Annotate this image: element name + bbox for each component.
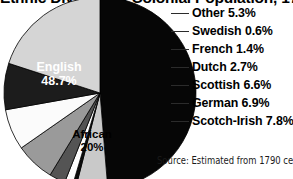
slice-label-african-value: 20% (59, 141, 125, 154)
legend-item: Other 5.3% (171, 5, 293, 23)
slice-label-african: African 20% (59, 128, 125, 154)
leader-line-icon (171, 121, 189, 122)
leader-line-icon (171, 31, 189, 32)
legend-item-label: German 6.9% (192, 95, 269, 112)
legend-item: Dutch 2.7% (171, 59, 293, 77)
leader-line-icon (171, 103, 189, 104)
legend-item: French 1.4% (171, 41, 293, 59)
slice-label-english-value: 48.7% (22, 74, 96, 88)
source-note: Source: Estimated from 1790 census (157, 155, 293, 166)
slice-label-african-name: African (59, 128, 125, 141)
legend-item-label: Swedish 0.6% (192, 23, 273, 40)
legend-item-label: Dutch 2.7% (192, 59, 258, 76)
slice-label-english-name: English (22, 60, 96, 74)
leader-line-icon (171, 67, 189, 68)
legend-item: Scotch-Irish 7.8% (171, 113, 293, 131)
legend-item-label: Scotch-Irish 7.8% (192, 113, 293, 130)
legend-item: German 6.9% (171, 95, 293, 113)
chart-legend: Other 5.3%Swedish 0.6%French 1.4%Dutch 2… (171, 5, 293, 133)
pie-chart-figure: Ethnic Division of Colonial Population, … (0, 0, 293, 179)
legend-item: Swedish 0.6% (171, 23, 293, 41)
legend-item-label: Scottish 6.6% (192, 77, 271, 94)
legend-item-label: French 1.4% (192, 41, 264, 58)
legend-item: Scottish 6.6% (171, 77, 293, 95)
leader-line-icon (171, 49, 189, 50)
legend-item-label: Other 5.3% (192, 5, 256, 22)
slice-label-english: English 48.7% (22, 60, 96, 88)
leader-line-icon (171, 13, 189, 14)
leader-line-icon (171, 85, 189, 86)
